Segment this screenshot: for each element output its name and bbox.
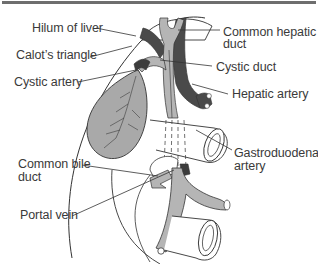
artery-stub-end-1 (207, 94, 212, 99)
label-calots-triangle: Calot’s triangle (16, 49, 97, 62)
label-hilum-of-liver: Hilum of liver (32, 22, 103, 35)
portal-vein-end (158, 248, 164, 254)
leader-hepatic-artery (192, 84, 228, 94)
biliary-anatomy-illustration (0, 0, 318, 264)
leader-common-bile (82, 165, 158, 176)
label-common-hepatic-duct-line2: duct (223, 38, 246, 51)
artery-stub-end-2 (205, 104, 210, 109)
label-hepatic-artery: Hepatic artery (232, 88, 308, 101)
gallbladder (87, 70, 147, 159)
label-common-bile-duct-line2: duct (18, 171, 41, 184)
label-portal-vein: Portal vein (20, 209, 78, 222)
label-cystic-artery: Cystic artery (14, 76, 82, 89)
leader-portal-vein (72, 170, 174, 216)
diagram-canvas: Hilum of liver Calot’s triangle Cystic a… (0, 0, 318, 264)
portal-branch-end (224, 200, 230, 210)
liver-lower-contour (135, 175, 150, 262)
label-cystic-duct: Cystic duct (216, 61, 276, 74)
label-gastroduodenal-artery-line2: artery (234, 160, 265, 173)
